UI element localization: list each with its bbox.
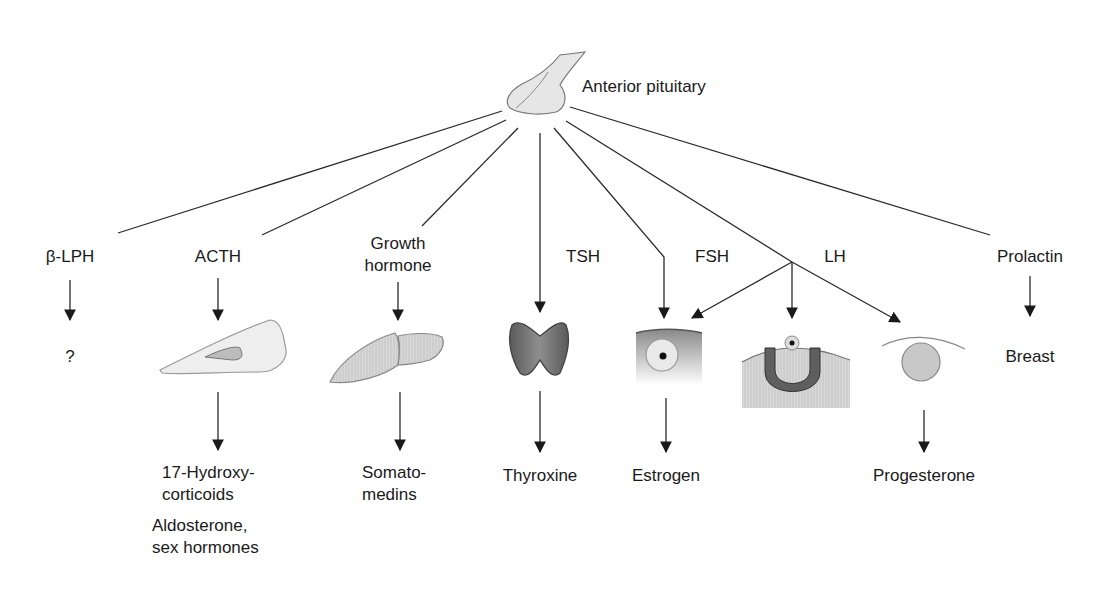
arrow-lh-corpus-luteum bbox=[792, 262, 900, 322]
line-gh bbox=[422, 128, 518, 226]
product-somatomedins: Somato- medins bbox=[362, 462, 426, 506]
hormone-acth-label: ACTH bbox=[195, 246, 241, 268]
connector-lines bbox=[70, 107, 1030, 452]
product-line: medins bbox=[362, 484, 426, 506]
hormone-fsh-label: FSH bbox=[695, 246, 729, 268]
product-aldosterone-sex-hormones: Aldosterone, sex hormones bbox=[152, 515, 259, 559]
product-progesterone: Progesterone bbox=[873, 465, 975, 487]
hormone-gh-label: Growth hormone bbox=[364, 233, 431, 277]
gh-label-line2: hormone bbox=[364, 255, 431, 277]
arrow-fsh bbox=[554, 128, 664, 318]
product-estrogen: Estrogen bbox=[632, 465, 700, 487]
thyroid-icon bbox=[510, 323, 569, 375]
liver-icon bbox=[330, 333, 443, 383]
ovarian-follicle-icon bbox=[636, 329, 702, 385]
pituitary-gland-icon bbox=[507, 52, 585, 114]
line-blph bbox=[118, 111, 502, 233]
hormone-blph-label: β-LPH bbox=[46, 246, 95, 268]
product-line: sex hormones bbox=[152, 537, 259, 559]
corpus-luteum-icon bbox=[882, 337, 965, 381]
line-prolactin bbox=[570, 107, 990, 235]
line-lh bbox=[566, 121, 792, 262]
anterior-pituitary-label: Anterior pituitary bbox=[582, 76, 706, 98]
gh-label-line1: Growth bbox=[364, 233, 431, 255]
arrow-lh-follicle bbox=[692, 262, 792, 318]
breast-target-label: Breast bbox=[1005, 346, 1054, 368]
product-line: corticoids bbox=[162, 484, 255, 506]
hormone-prolactin-label: Prolactin bbox=[997, 246, 1063, 268]
hormone-lh-label: LH bbox=[824, 246, 846, 268]
ovulation-icon bbox=[742, 336, 850, 408]
product-line: Somato- bbox=[362, 462, 426, 484]
adrenal-cell-icon bbox=[160, 320, 286, 374]
product-line: 17-Hydroxy- bbox=[162, 462, 255, 484]
product-line: Aldosterone, bbox=[152, 515, 259, 537]
product-thyroxine: Thyroxine bbox=[503, 465, 578, 487]
hormone-tsh-label: TSH bbox=[566, 246, 600, 268]
product-17-hydroxycorticoids: 17-Hydroxy- corticoids bbox=[162, 462, 255, 506]
blph-target-unknown: ? bbox=[65, 346, 74, 368]
